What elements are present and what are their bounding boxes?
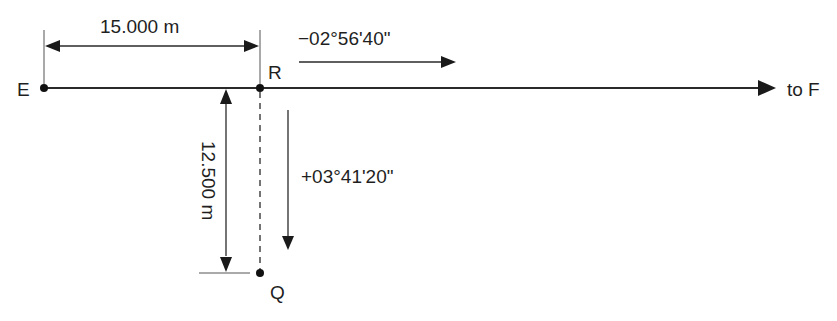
angle-arrow-toward-q (282, 110, 294, 250)
point-e-marker-icon (40, 84, 48, 92)
dimension-label-vertical: 12.500 m (199, 141, 218, 220)
survey-diagram: E R Q to F 15.000 m −02°56'40" +03°41'20… (0, 0, 837, 321)
dimension-horizontal (44, 30, 260, 84)
point-label-r: R (268, 63, 282, 82)
angle-arrow-right-icon (441, 56, 456, 68)
baseline (44, 80, 776, 96)
point-label-e: E (17, 80, 30, 99)
angle-label-baseline: −02°56'40" (298, 29, 390, 48)
baseline-arrowhead-icon (758, 80, 776, 96)
dimension-label-horizontal: 15.000 m (100, 17, 179, 36)
dim-arrow-down-icon (220, 257, 232, 272)
angle-arrow-down-icon (282, 236, 294, 250)
dim-arrow-right-icon (244, 40, 259, 52)
dim-arrow-up-icon (220, 89, 232, 104)
point-label-q: Q (270, 283, 285, 302)
point-q-marker-icon (256, 269, 264, 277)
point-r-marker-icon (256, 84, 264, 92)
diagram-canvas (0, 0, 837, 321)
angle-arrow-baseline (299, 56, 456, 68)
dim-arrow-left-icon (45, 40, 60, 52)
angle-label-toward-q: +03°41'20" (301, 167, 393, 186)
direction-label-to-f: to F (787, 80, 820, 99)
